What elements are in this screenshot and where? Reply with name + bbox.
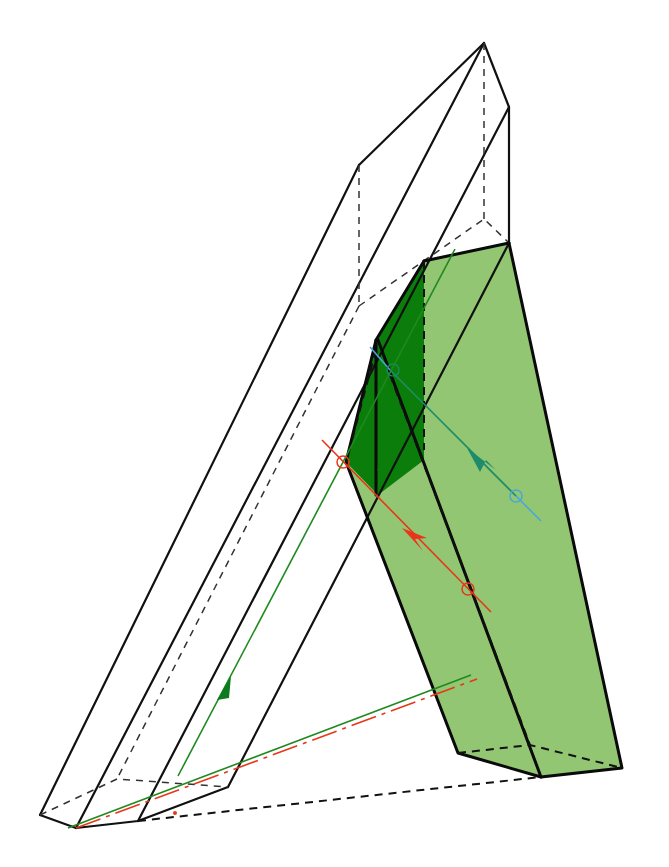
red-dot-marker bbox=[173, 811, 177, 815]
red-ground-ray-dashed bbox=[76, 679, 477, 828]
green-ground-ray bbox=[68, 675, 471, 828]
prism-diagram bbox=[0, 0, 669, 867]
prism-bottom-edge bbox=[40, 787, 228, 828]
diagram-canvas bbox=[0, 0, 669, 867]
prism-hidden-long-edge bbox=[117, 306, 359, 779]
prism-top-edge bbox=[359, 43, 509, 243]
